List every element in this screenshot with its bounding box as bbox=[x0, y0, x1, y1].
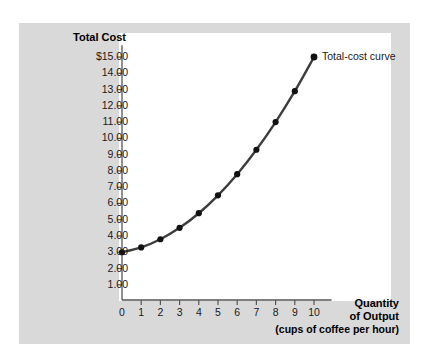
chart-figure: Total Cost 1.002.003.004.005.006.007.008… bbox=[0, 0, 427, 364]
x-axis-title: Quantity of Output (cups of coffee per h… bbox=[247, 297, 399, 336]
x-axis-title-line2: of Output bbox=[247, 310, 399, 323]
curve-annotation-label: Total-cost curve bbox=[322, 50, 396, 62]
x-axis-title-units: (cups of coffee per hour) bbox=[247, 323, 399, 336]
x-axis-title-line1: Quantity bbox=[354, 297, 399, 309]
